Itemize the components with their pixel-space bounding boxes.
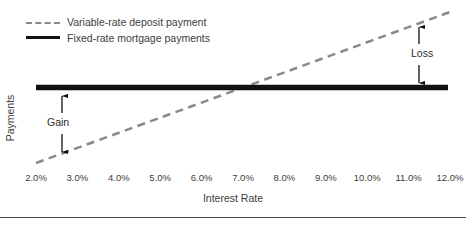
x-axis-tick-label: 11.0%: [395, 172, 421, 184]
gain-annotation-label: Gain: [45, 116, 71, 128]
y-axis-title: Payments: [4, 88, 16, 148]
x-axis-tick-label: 10.0%: [354, 172, 381, 184]
plot-area: Gain Loss: [0, 0, 466, 200]
x-axis-tick-label: 2.0%: [25, 172, 47, 184]
x-axis-tick-label: 4.0%: [108, 172, 130, 184]
x-axis-tick-label: 12.0%: [437, 172, 464, 184]
x-axis-tick-label: 7.0%: [232, 172, 254, 184]
x-axis-tick-label: 3.0%: [67, 172, 89, 184]
plot-svg: [0, 0, 466, 200]
x-axis-tick-label: 6.0%: [191, 172, 213, 184]
loss-annotation-label: Loss: [409, 47, 435, 59]
x-axis-title: Interest Rate: [0, 192, 466, 205]
x-axis-tick-label: 9.0%: [315, 172, 337, 184]
x-axis-tick-label: 5.0%: [149, 172, 171, 184]
x-axis-tick-label: 8.0%: [274, 172, 296, 184]
x-axis-tick-labels: 2.0%3.0%4.0%5.0%6.0%7.0%8.0%9.0%10.0%11.…: [0, 172, 466, 186]
chart-container: Variable-rate deposit payment Fixed-rate…: [0, 0, 466, 225]
bottom-divider: [0, 217, 466, 218]
